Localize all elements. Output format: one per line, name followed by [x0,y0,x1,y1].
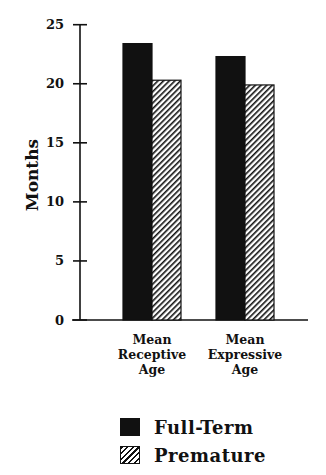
y-tick-label: 15 [46,135,64,150]
y-tick-label: 5 [55,253,64,268]
bars [123,44,274,320]
y-tick-label: 10 [46,194,64,209]
y-tick-label: 20 [46,76,64,91]
y-tick-label: 0 [55,313,64,328]
legend-label: Full-Term [154,417,254,438]
solid-swatch-icon [120,418,140,436]
bar-chart: 0510152025 MeanReceptiveAgeMeanExpressiv… [0,0,326,410]
x-category-label: MeanReceptiveAge [118,332,186,377]
bar-premature-0 [152,80,181,320]
x-axis-labels: MeanReceptiveAgeMeanExpressiveAge [118,332,282,377]
legend-item-premature: Premature [120,441,266,469]
x-category-label: MeanExpressiveAge [208,332,282,377]
bar-full-term-1 [216,57,245,320]
hatched-swatch-icon [120,446,140,464]
bar-premature-1 [245,85,274,320]
legend-item-full-term: Full-Term [120,413,266,441]
legend: Full-Term Premature [120,413,266,469]
y-axis-title: Months [22,139,42,211]
y-tick-label: 25 [46,17,64,32]
legend-label: Premature [154,445,266,466]
bar-full-term-0 [123,44,152,320]
